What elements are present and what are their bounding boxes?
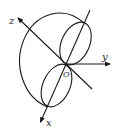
origin-label: O [63,70,70,79]
x-axis-label: x [46,117,52,128]
y-axis-label: y [101,51,108,62]
z-axis-label: z [8,15,15,26]
diagram-canvas: z y x O [0,0,116,134]
x-axis [41,10,91,122]
sphere-lobes-diagram: z y x O [0,0,116,134]
sphere-outline [20,13,84,107]
z-axis [18,18,92,89]
